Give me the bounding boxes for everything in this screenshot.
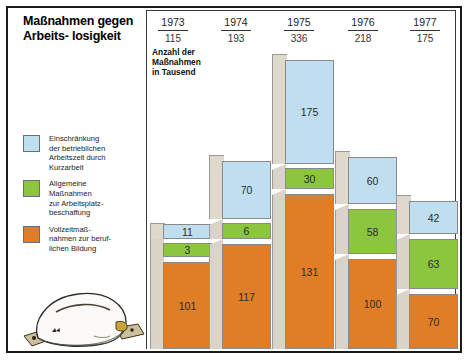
segment-green-1977[interactable]: 63 xyxy=(409,239,458,289)
segment-orange-1974[interactable]: 117 xyxy=(222,244,271,349)
page-title: Maßnahmen gegen Arbeits- losigkeit xyxy=(23,14,145,44)
segment-value-orange-1976: 100 xyxy=(349,298,396,310)
bar-group-1974[interactable]: 70 6 117 xyxy=(209,10,271,349)
bar-side-green-1975 xyxy=(272,164,286,189)
segment-orange-1973[interactable]: 101 xyxy=(163,262,212,349)
segment-value-green-1977: 63 xyxy=(410,258,457,270)
bar-side-orange-1976 xyxy=(335,254,349,349)
bar-group-1977[interactable]: 42 63 70 xyxy=(396,10,458,349)
segment-green-1974[interactable]: 6 xyxy=(222,223,271,239)
segment-value-green-1975: 30 xyxy=(286,172,333,184)
legend-swatch-blue xyxy=(23,135,40,152)
segment-blue-1977[interactable]: 42 xyxy=(409,201,458,234)
legend-panel: Maßnahmen gegen Arbeits- losigkeit Einsc… xyxy=(8,8,144,351)
segment-blue-1974[interactable]: 70 xyxy=(222,161,271,219)
segment-orange-1976[interactable]: 100 xyxy=(348,259,397,349)
segment-blue-1973[interactable]: 11 xyxy=(163,224,212,239)
bar-side-green-1976 xyxy=(335,204,349,254)
bar-side-green-1977 xyxy=(396,234,410,289)
segment-value-green-1976: 58 xyxy=(349,225,396,237)
infographic-page: Maßnahmen gegen Arbeits- losigkeit Einsc… xyxy=(0,0,470,361)
segment-value-orange-1973: 101 xyxy=(164,299,211,311)
segment-orange-1977[interactable]: 70 xyxy=(409,294,458,349)
legend-swatch-orange xyxy=(23,226,40,243)
bar-side-orange-1977 xyxy=(396,289,410,349)
legend-label-arbeitsplatzbeschaffung: Allgemeine Maßnahmen zur Arbeitsplatz- b… xyxy=(49,179,151,217)
segment-value-blue-1976: 60 xyxy=(349,174,396,186)
segment-value-blue-1975: 175 xyxy=(286,106,333,118)
bar-side-orange-1974 xyxy=(209,239,223,349)
bars-layer: 11 3 101 70 6 117 xyxy=(146,10,456,349)
legend-item-arbeitsplatzbeschaffung[interactable]: Allgemeine Maßnahmen zur Arbeitsplatz- b… xyxy=(23,179,151,217)
segment-green-1975[interactable]: 30 xyxy=(285,168,334,189)
bar-side-green-1974 xyxy=(209,219,223,239)
legend-label-kurzarbeit: Einschränkung der betrieblichen Arbeitsz… xyxy=(49,134,151,172)
legend-item-kurzarbeit[interactable]: Einschränkung der betrieblichen Arbeitsz… xyxy=(23,134,151,172)
segment-value-orange-1975: 131 xyxy=(286,265,333,277)
segment-value-blue-1974: 70 xyxy=(223,184,270,196)
segment-blue-1975[interactable]: 175 xyxy=(285,60,334,164)
segment-value-blue-1973: 11 xyxy=(164,225,211,237)
segment-green-1976[interactable]: 58 xyxy=(348,209,397,254)
legend-label-berufliche-bildung: Vollzeitmaß- nahmen zur beruf- lichen Bi… xyxy=(49,225,151,254)
legend-swatch-green xyxy=(23,180,40,197)
segment-value-orange-1974: 117 xyxy=(223,290,270,302)
segment-value-blue-1977: 42 xyxy=(410,211,457,223)
bar-side-orange-1975 xyxy=(272,189,286,349)
bar-group-1975[interactable]: 175 30 131 xyxy=(272,10,334,349)
segment-value-green-1973: 3 xyxy=(164,244,211,256)
legend-item-berufliche-bildung[interactable]: Vollzeitmaß- nahmen zur beruf- lichen Bi… xyxy=(23,225,151,254)
segment-blue-1976[interactable]: 60 xyxy=(348,157,397,204)
hard-hat-illustration xyxy=(20,284,148,354)
segment-green-1973[interactable]: 3 xyxy=(163,243,212,257)
segment-orange-1975[interactable]: 131 xyxy=(285,194,334,349)
bar-side-orange-1973 xyxy=(150,257,164,349)
bar-group-1973[interactable]: 11 3 101 xyxy=(150,10,212,349)
bar-group-1976[interactable]: 60 58 100 xyxy=(335,10,397,349)
segment-value-green-1974: 6 xyxy=(223,225,270,237)
legend: Einschränkung der betrieblichen Arbeitsz… xyxy=(23,134,151,261)
segment-value-orange-1977: 70 xyxy=(410,315,457,327)
